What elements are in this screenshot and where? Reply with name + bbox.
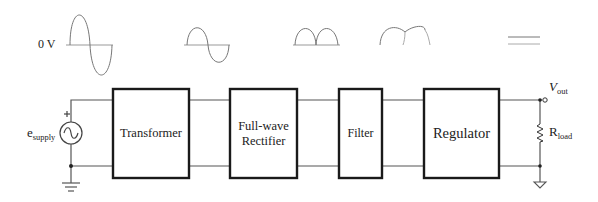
source-label-sub: supply [33, 132, 56, 142]
output-terminal-icon [543, 98, 547, 102]
vout-label-main: V [549, 79, 557, 94]
waveform-filtered [380, 26, 430, 45]
waveform-supply [66, 15, 113, 75]
rectifier-label: Full-wave Rectifier [230, 89, 297, 178]
waveform-dc [508, 37, 540, 44]
regulator-label: Regulator [424, 89, 499, 178]
rectifier-label-line2: Rectifier [242, 134, 286, 148]
waveform-rectified [293, 29, 340, 46]
zero-volt-label: 0 V [38, 37, 55, 52]
source-label: esupply [27, 125, 55, 142]
rload-label-main: R [549, 124, 558, 139]
vout-label-sub: out [557, 86, 568, 96]
transformer-label: Transformer [113, 89, 189, 178]
junction-dot [69, 164, 73, 168]
waveform-transformer [184, 28, 230, 63]
rload-label: Rload [549, 124, 572, 141]
vout-label: Vout [549, 79, 568, 96]
resistor-icon [537, 124, 543, 142]
rload-label-sub: load [558, 131, 573, 141]
rectifier-label-line1: Full-wave [238, 119, 289, 133]
junction-dot [538, 164, 542, 168]
ground-icon [62, 183, 80, 191]
diagram-canvas [0, 0, 598, 202]
ground-triangle-icon [534, 182, 546, 188]
waveforms [66, 15, 540, 75]
filter-label: Filter [339, 89, 382, 178]
junction-dot [538, 98, 542, 102]
